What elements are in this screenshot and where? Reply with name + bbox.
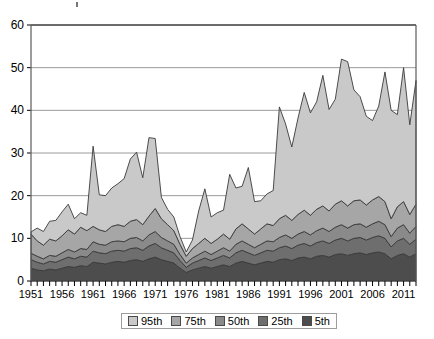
- legend-label: 75th: [184, 316, 205, 327]
- y-axis-label: 0: [17, 274, 24, 288]
- legend-swatch-icon: [171, 316, 181, 326]
- legend-label: 5th: [315, 316, 330, 327]
- legend-swatch-icon: [302, 316, 312, 326]
- legend-label: 25th: [271, 316, 292, 327]
- plot-svg: 0102030405060195119561961196619711976198…: [0, 0, 434, 300]
- plot-area: 0102030405060195119561961196619711976198…: [0, 0, 434, 300]
- x-axis-label: 1991: [267, 288, 291, 300]
- legend-item-95th[interactable]: 95th: [128, 316, 162, 327]
- x-axis-label: 2006: [360, 288, 384, 300]
- x-axis-label: 1986: [236, 288, 260, 300]
- x-axis-label: 1966: [112, 288, 136, 300]
- legend-swatch-icon: [215, 316, 225, 326]
- legend-item-25th[interactable]: 25th: [258, 316, 292, 327]
- y-axis-label: 50: [11, 61, 25, 75]
- legend-label: 95th: [141, 316, 162, 327]
- legend-item-50th[interactable]: 50th: [215, 316, 249, 327]
- x-axis-label: 1956: [50, 288, 74, 300]
- x-axis-label: 1981: [205, 288, 229, 300]
- legend-swatch-icon: [258, 316, 268, 326]
- legend-item-5th[interactable]: 5th: [302, 316, 330, 327]
- legend-swatch-icon: [128, 316, 138, 326]
- y-axis-label: 20: [11, 189, 25, 203]
- y-axis-label: 40: [11, 103, 25, 117]
- x-axis-label: 2001: [329, 288, 353, 300]
- x-axis-label: 1971: [143, 288, 167, 300]
- chart-legend: 95th75th50th25th5th: [121, 313, 337, 329]
- legend-item-75th[interactable]: 75th: [171, 316, 205, 327]
- x-axis-label: 1976: [174, 288, 198, 300]
- y-axis-label: 10: [11, 231, 25, 245]
- y-axis-label: 30: [11, 146, 25, 160]
- stacked-area-chart: 0102030405060195119561961196619711976198…: [0, 0, 434, 339]
- x-axis-label: 2011: [392, 288, 416, 300]
- x-axis-label: 1996: [298, 288, 322, 300]
- x-axis-label: 1951: [19, 288, 43, 300]
- x-axis-label: 1961: [81, 288, 105, 300]
- legend-label: 50th: [228, 316, 249, 327]
- y-axis-label: 60: [11, 18, 25, 32]
